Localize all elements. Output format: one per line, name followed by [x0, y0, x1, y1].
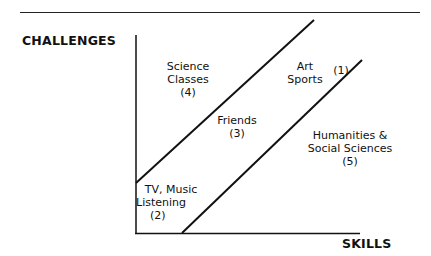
region-tv-music-listening: TV, Music Listening (2) [134, 183, 198, 222]
y-axis-label: CHALLENGES [22, 33, 116, 48]
region-science-classes: Science Classes (4) [158, 60, 218, 99]
x-axis-label: SKILLS [342, 236, 391, 251]
region-label-line2: Social Sciences [300, 142, 400, 155]
region-label-line1: Science [158, 60, 218, 73]
region-number: (2) [134, 209, 198, 222]
upper-channel-boundary [136, 20, 314, 183]
region-label-line2: Classes [158, 73, 218, 86]
region-label-line2: Sports [280, 73, 330, 86]
region-label-line1: Friends [212, 114, 262, 127]
region-label-line1: TV, Music [134, 183, 198, 196]
region-label-line1: Art [280, 60, 330, 73]
region-number: (3) [212, 127, 262, 140]
region-1-number: (1) [326, 64, 356, 77]
region-number: (4) [158, 86, 218, 99]
region-friends: Friends (3) [212, 114, 262, 140]
region-label-line1: Humanities & [300, 129, 400, 142]
region-humanities-social-sciences: Humanities & Social Sciences (5) [300, 129, 400, 168]
region-number: (5) [300, 155, 400, 168]
region-label-line2: Listening [134, 196, 198, 209]
region-art-sports: Art Sports [280, 60, 330, 86]
